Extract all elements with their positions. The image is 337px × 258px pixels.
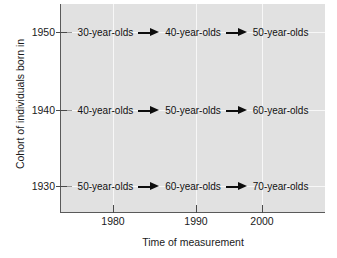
arrow-right-icon xyxy=(138,28,160,37)
cohort-cell-label: 70-year-olds xyxy=(253,181,309,193)
cohort-cell-label: 60-year-olds xyxy=(253,105,309,117)
arrow-right-icon xyxy=(226,106,248,115)
arrow-right-icon xyxy=(226,182,248,191)
arrow-right-icon xyxy=(138,182,160,191)
chart-figure: 30-year-olds 40-year-olds 50-year-olds 4… xyxy=(0,0,337,258)
x-tick-label-2000: 2000 xyxy=(240,215,284,227)
x-tick-mark-2000 xyxy=(262,205,263,213)
x-tick-label-1990: 1990 xyxy=(174,215,218,227)
cohort-cell-label: 40-year-olds xyxy=(78,105,134,117)
cohort-row-1940: 40-year-olds 50-year-olds 60-year-olds xyxy=(61,104,325,117)
x-tick-label-1980: 1980 xyxy=(91,215,135,227)
y-tick-mark-1950 xyxy=(56,32,67,33)
x-tick-mark-1990 xyxy=(196,205,197,213)
y-axis-line xyxy=(60,4,61,213)
cohort-cell-label: 50-year-olds xyxy=(165,105,221,117)
cohort-cell-label: 50-year-olds xyxy=(253,27,309,39)
y-tick-mark-1930 xyxy=(56,186,67,187)
cohort-cell-label: 30-year-olds xyxy=(78,27,134,39)
arrow-right-icon xyxy=(226,28,248,37)
cohort-cell-label: 60-year-olds xyxy=(165,181,221,193)
cohort-cell-label: 40-year-olds xyxy=(165,27,221,39)
plot-area: 30-year-olds 40-year-olds 50-year-olds 4… xyxy=(61,4,325,212)
x-tick-mark-1980 xyxy=(113,205,114,213)
cohort-cell-label: 50-year-olds xyxy=(78,181,134,193)
x-axis-title: Time of measurement xyxy=(61,236,325,248)
cohort-row-1950: 30-year-olds 40-year-olds 50-year-olds xyxy=(61,26,325,39)
arrow-right-icon xyxy=(138,106,160,115)
y-tick-mark-1940 xyxy=(56,110,67,111)
y-axis-title: Cohort of individuals born in xyxy=(14,4,26,204)
cohort-row-1930: 50-year-olds 60-year-olds 70-year-olds xyxy=(61,180,325,193)
x-axis-line xyxy=(60,212,325,213)
